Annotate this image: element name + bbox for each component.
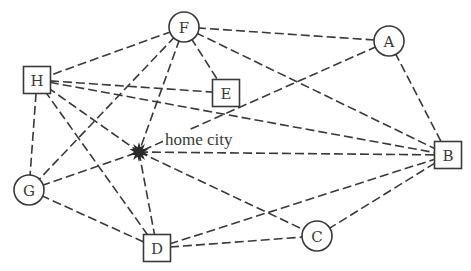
home-city-label: home city <box>165 130 233 149</box>
node-f: F <box>169 12 199 42</box>
edge-c-b <box>317 155 448 236</box>
node-label: B <box>442 147 453 165</box>
edge-h-home <box>37 80 139 152</box>
node-e: E <box>213 80 240 107</box>
edge-home-b <box>139 152 448 155</box>
node-g: G <box>14 175 44 205</box>
edge-f-h <box>37 27 184 80</box>
edge-home-d <box>139 152 157 248</box>
edge-d-c <box>157 236 317 248</box>
edge-g-d <box>29 190 157 248</box>
node-a: A <box>374 26 404 56</box>
edge-f-g <box>29 27 184 190</box>
node-b: B <box>435 142 462 169</box>
node-h: H <box>24 67 51 94</box>
home-city-node: home city <box>130 130 244 162</box>
edge-h-d <box>37 80 157 248</box>
node-d: D <box>144 235 171 262</box>
edge-home-c <box>139 152 317 236</box>
node-label: C <box>311 228 322 246</box>
edge-g-home <box>29 152 139 190</box>
edge-a-b <box>389 41 448 155</box>
node-label: F <box>179 19 189 37</box>
node-label: D <box>151 240 163 258</box>
city-graph-diagram: home city FAHEBGCD <box>0 0 471 271</box>
node-label: G <box>23 182 35 200</box>
node-label: H <box>30 72 43 90</box>
node-label: E <box>221 85 232 103</box>
edge-h-g <box>29 80 37 190</box>
edge-h-e <box>37 80 226 93</box>
edge-f-a <box>184 27 389 41</box>
node-c: C <box>302 221 332 251</box>
node-label: A <box>383 33 395 51</box>
